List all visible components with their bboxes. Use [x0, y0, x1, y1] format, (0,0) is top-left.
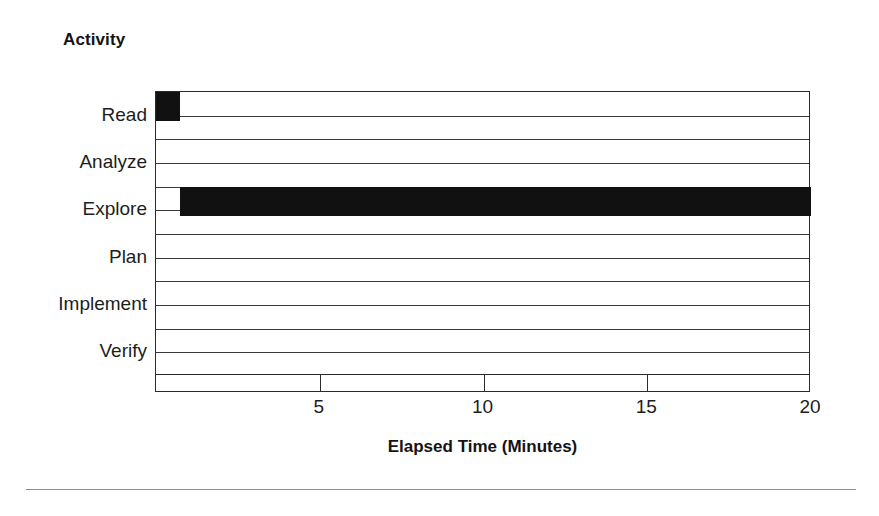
x-axis-strip	[155, 375, 810, 392]
gridline	[156, 329, 809, 330]
bottom-divider	[26, 489, 856, 490]
y-tick-label-plan: Plan	[15, 246, 155, 268]
y-tick-label-explore: Explore	[15, 198, 155, 220]
chart-figure: Activity ReadAnalyzeExplorePlanImplement…	[0, 0, 879, 516]
x-tick-mark-5	[320, 374, 321, 391]
x-tick-mark-15	[647, 374, 648, 391]
y-tick-label-analyze: Analyze	[15, 151, 155, 173]
bar-read	[156, 92, 180, 121]
x-axis-title: Elapsed Time (Minutes)	[155, 437, 810, 457]
gridline	[156, 234, 809, 235]
x-tick-label-5: 5	[313, 396, 324, 418]
bar-explore	[180, 187, 811, 216]
gridline	[156, 281, 809, 282]
y-axis-group-title: Activity	[63, 30, 125, 50]
gridline	[156, 258, 809, 259]
x-tick-mark-10	[484, 374, 485, 391]
gridline	[156, 116, 809, 117]
gridline	[156, 352, 809, 353]
y-tick-label-read: Read	[15, 104, 155, 126]
x-tick-label-10: 10	[472, 396, 493, 418]
plot-area	[155, 91, 810, 375]
gridline	[156, 305, 809, 306]
gridline	[156, 139, 809, 140]
x-tick-label-20: 20	[799, 396, 820, 418]
x-tick-label-15: 15	[636, 396, 657, 418]
gridline	[156, 163, 809, 164]
y-tick-label-verify: Verify	[15, 340, 155, 362]
y-tick-label-implement: Implement	[15, 293, 155, 315]
y-axis-tick-labels: ReadAnalyzeExplorePlanImplementVerify	[0, 91, 155, 375]
